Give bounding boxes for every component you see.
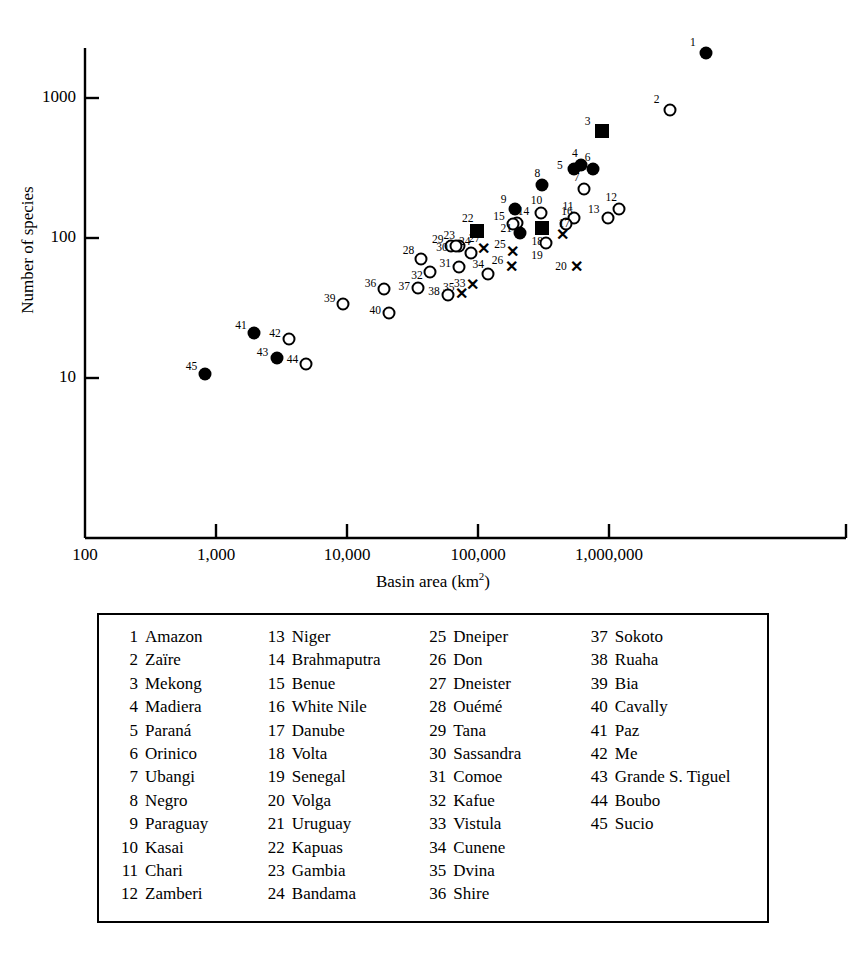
x-tick-label-1,000,000: 1,000,000 xyxy=(539,545,679,565)
data-point-label-2: 2 xyxy=(654,93,660,105)
legend-item-name: Uruguay xyxy=(292,812,351,835)
x-tick-label-100,000: 100,000 xyxy=(408,545,548,565)
legend-item-2: 2Zaïre xyxy=(113,648,260,671)
legend-item-name: Senegal xyxy=(292,765,346,788)
data-point-label-10: 10 xyxy=(531,194,543,206)
legend-item-number: 38 xyxy=(583,648,615,671)
legend-item-number: 28 xyxy=(421,695,453,718)
legend-item-name: Paraguay xyxy=(145,812,208,835)
data-point-1-filled-circle xyxy=(699,46,712,59)
legend-item-number: 7 xyxy=(113,765,145,788)
data-point-label-1: 1 xyxy=(690,36,696,48)
legend-item-41: 41Paz xyxy=(583,719,759,742)
data-point-label-3: 3 xyxy=(585,115,591,127)
data-point-label-6: 6 xyxy=(585,151,591,163)
legend-item-name: Dneister xyxy=(453,672,511,695)
legend-item-name: Ouémé xyxy=(453,695,502,718)
data-point-label-22: 22 xyxy=(462,212,474,224)
legend-item-number: 37 xyxy=(583,625,615,648)
data-point-label-17: 17 xyxy=(559,217,571,229)
data-point-40-open-circle xyxy=(383,307,396,320)
legend-item-number: 11 xyxy=(113,859,145,882)
legend-item-number: 36 xyxy=(421,882,453,905)
legend-item-name: Paz xyxy=(615,719,640,742)
data-point-label-38: 38 xyxy=(428,285,440,297)
legend-item-8: 8Negro xyxy=(113,789,260,812)
data-point-label-8: 8 xyxy=(534,167,540,179)
legend-item-10: 10Kasai xyxy=(113,836,260,859)
data-point-12-open-circle xyxy=(613,203,626,216)
legend-item-number: 10 xyxy=(113,836,145,859)
legend-item-45: 45Sucio xyxy=(583,812,759,835)
legend-item-5: 5Paraná xyxy=(113,719,260,742)
legend-item-number: 40 xyxy=(583,695,615,718)
legend-item-name: Ubangi xyxy=(145,765,195,788)
legend-item-number: 9 xyxy=(113,812,145,835)
data-point-label-7: 7 xyxy=(574,171,580,183)
legend-item-number: 14 xyxy=(260,648,292,671)
legend-item-17: 17Danube xyxy=(260,719,422,742)
data-point-label-31: 31 xyxy=(440,257,452,269)
legend-item-name: Sassandra xyxy=(453,742,521,765)
data-point-label-16: 16 xyxy=(561,205,573,217)
legend-item-37: 37Sokoto xyxy=(583,625,759,648)
y-tick-label-10: 10 xyxy=(0,367,76,387)
legend-item-40: 40Cavally xyxy=(583,695,759,718)
data-point-label-36: 36 xyxy=(365,277,377,289)
data-point-label-12: 12 xyxy=(606,191,618,203)
legend-item-name: Kapuas xyxy=(292,836,343,859)
legend-item-name: Benue xyxy=(292,672,335,695)
legend-item-number: 5 xyxy=(113,719,145,742)
legend-item-number: 12 xyxy=(113,882,145,905)
legend-item-number: 17 xyxy=(260,719,292,742)
data-point-label-34: 34 xyxy=(473,258,485,270)
data-point-6-filled-circle xyxy=(586,163,599,176)
data-point-label-13: 13 xyxy=(588,203,600,215)
y-tick-marks xyxy=(85,98,99,378)
data-point-7-open-circle xyxy=(577,182,590,195)
legend-item-number: 3 xyxy=(113,672,145,695)
legend-item-name: Ruaha xyxy=(615,648,658,671)
legend-item-number: 34 xyxy=(421,836,453,859)
data-point-label-9: 9 xyxy=(501,193,507,205)
data-point-label-27: 27 xyxy=(469,232,481,244)
legend-item-number: 26 xyxy=(421,648,453,671)
data-point-label-37: 37 xyxy=(399,280,411,292)
data-point-3-filled-square xyxy=(595,124,609,138)
legend-item-name: Vistula xyxy=(453,812,501,835)
legend-item-number: 41 xyxy=(583,719,615,742)
data-point-label-26: 26 xyxy=(492,254,504,266)
legend-item-number: 45 xyxy=(583,812,615,835)
legend-item-14: 14Brahmaputra xyxy=(260,648,422,671)
legend-item-32: 32Kafue xyxy=(421,789,583,812)
data-point-label-19: 19 xyxy=(531,249,543,261)
data-point-10-open-circle xyxy=(534,207,547,220)
data-point-41-filled-circle xyxy=(247,326,260,339)
data-point-label-43: 43 xyxy=(257,346,269,358)
legend-item-18: 18Volta xyxy=(260,742,422,765)
legend-item-number: 22 xyxy=(260,836,292,859)
data-point-17-cross: ✕ xyxy=(555,228,569,242)
data-point-label-28: 28 xyxy=(403,244,415,256)
legend-item-number: 18 xyxy=(260,742,292,765)
legend-item-name: Cunene xyxy=(453,836,505,859)
scatter-plot: 100010010 1001,00010,000100,0001,000,000… xyxy=(0,0,866,600)
data-point-label-25: 25 xyxy=(494,238,506,250)
data-point-38-open-circle xyxy=(441,289,454,302)
legend-item-number: 42 xyxy=(583,742,615,765)
legend-item-name: Brahmaputra xyxy=(292,648,381,671)
legend-column-4: 37Sokoto38Ruaha39Bia40Cavally41Paz42Me43… xyxy=(583,625,759,915)
legend-item-28: 28Ouémé xyxy=(421,695,583,718)
legend-item-name: Dneiper xyxy=(453,625,508,648)
legend-item-15: 15Benue xyxy=(260,672,422,695)
data-point-25-cross: ✕ xyxy=(506,245,520,259)
legend-column-2: 13Niger14Brahmaputra15Benue16White Nile1… xyxy=(260,625,422,915)
legend-item-26: 26Don xyxy=(421,648,583,671)
legend-item-number: 24 xyxy=(260,882,292,905)
legend-column-3: 25Dneiper26Don27Dneister28Ouémé29Tana30S… xyxy=(421,625,583,915)
legend-item-24: 24Bandama xyxy=(260,882,422,905)
data-point-label-15: 15 xyxy=(493,210,505,222)
legend-item-number: 27 xyxy=(421,672,453,695)
legend-item-number: 44 xyxy=(583,789,615,812)
legend-item-number: 19 xyxy=(260,765,292,788)
